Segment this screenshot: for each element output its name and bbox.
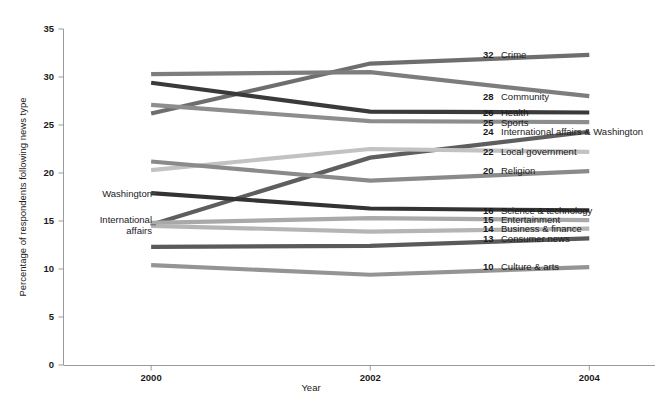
x-tick-label: 2004 <box>579 372 601 383</box>
series-value-consumer-news: 13 <box>483 233 494 244</box>
series-label-international-affairs-washington: International affairs & Washington <box>501 126 643 137</box>
left-annotation-international-affairs: International <box>100 214 152 225</box>
series-value-crime: 32 <box>483 49 494 60</box>
series-line-crime <box>151 55 589 114</box>
series-value-international-affairs-washington: 24 <box>483 126 494 137</box>
y-tick-label: 35 <box>43 23 54 34</box>
series-value-culture-arts: 10 <box>483 261 494 272</box>
y-axis-title: Percentage of respondents following news… <box>17 97 28 296</box>
series-labels: 32Crime28Community26Health25Sports24Inte… <box>483 49 643 272</box>
axes <box>64 29 656 366</box>
left-annotations: WashingtonInternationalaffairs <box>100 188 156 236</box>
x-tick-label: 2002 <box>360 372 381 383</box>
y-tick-label: 20 <box>43 167 54 178</box>
series-label-religion: Religion <box>501 165 535 176</box>
x-axis-ticks: 200020022004 <box>141 366 601 384</box>
y-tick-label: 15 <box>43 215 54 226</box>
series-value-religion: 20 <box>483 165 494 176</box>
y-tick-label: 5 <box>49 311 55 322</box>
series-value-community: 28 <box>483 91 494 102</box>
series-label-culture-arts: Culture & arts <box>501 261 559 272</box>
left-annotation-international-affairs: affairs <box>126 225 152 236</box>
series-label-consumer-news: Consumer news <box>501 233 570 244</box>
y-tick-label: 25 <box>43 119 54 130</box>
chart-page: 05101520253035 200020022004 32Crime28Com… <box>0 0 664 414</box>
y-tick-label: 30 <box>43 71 54 82</box>
x-axis-title: Year <box>301 382 320 393</box>
x-tick-label: 2000 <box>141 372 162 383</box>
series-label-community: Community <box>501 91 549 102</box>
left-annotation-washington: Washington <box>102 188 152 199</box>
series-value-local-government: 22 <box>483 146 494 157</box>
y-axis-ticks: 05101520253035 <box>43 23 63 370</box>
y-tick-label: 0 <box>49 359 54 370</box>
series-label-local-government: Local government <box>501 146 577 157</box>
y-tick-label: 10 <box>43 263 54 274</box>
line-chart: 05101520253035 200020022004 32Crime28Com… <box>0 0 664 414</box>
series-label-crime: Crime <box>501 49 526 60</box>
